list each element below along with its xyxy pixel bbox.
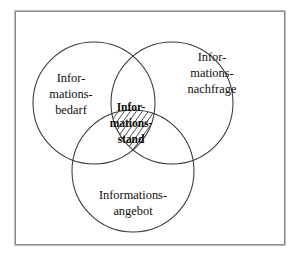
label-bedarf-line-3: bedarf [55, 103, 88, 117]
label-bedarf-line-2: mations- [49, 87, 92, 101]
label-stand-line-2: mations- [110, 117, 153, 130]
label-angebot-line-2: angebot [113, 204, 153, 218]
label-nachfrage-line-3: nachfrage [188, 82, 237, 96]
label-nachfrage-line-1: Infor- [198, 50, 227, 64]
label-nachfrage-line-2: mations- [190, 66, 233, 80]
label-angebot-line-1: Informations- [99, 188, 167, 202]
label-stand-line-3: stand [118, 133, 145, 146]
venn-diagram-container: Infor- mations- bedarf Infor- mations- n… [0, 0, 299, 261]
label-bedarf-line-1: Infor- [57, 71, 86, 85]
venn-diagram-svg: Infor- mations- bedarf Infor- mations- n… [0, 0, 299, 261]
label-stand-line-1: Infor- [117, 101, 146, 114]
